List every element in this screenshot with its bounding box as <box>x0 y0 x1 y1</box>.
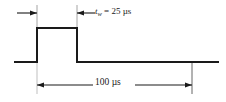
pulse-width-arrowhead-left <box>30 10 37 15</box>
period-label: 100 µs <box>95 78 121 88</box>
pulse-waveform-figure: tw = 25 µs 100 µs <box>0 0 226 102</box>
period-value: 100 <box>95 77 109 87</box>
pulse-width-label: tw = 25 µs <box>95 7 131 17</box>
pulse-width-equals: = <box>102 6 112 16</box>
pulse-width-unit: µs <box>120 6 131 16</box>
period-arrowhead-right <box>185 82 192 87</box>
pulse-width-arrowhead-right <box>77 10 84 15</box>
pulse-trace <box>14 28 219 62</box>
pulse-width-dimension <box>17 10 95 15</box>
period-unit: µs <box>109 77 121 87</box>
period-arrowhead-left <box>37 82 44 87</box>
